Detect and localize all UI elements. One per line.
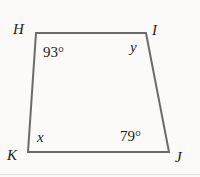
- angle-measure-h: 93°: [43, 45, 64, 60]
- angle-variable-x: x: [37, 130, 44, 145]
- vertex-label-k: K: [7, 148, 17, 163]
- vertex-label-h: H: [13, 22, 24, 37]
- angle-measure-j: 79°: [120, 129, 141, 144]
- angle-variable-y: y: [130, 40, 137, 55]
- vertex-label-i: I: [152, 23, 157, 38]
- quadrilateral-shape: [0, 0, 200, 177]
- geometry-figure: H I J K 93° y 79° x: [0, 0, 200, 177]
- vertex-label-j: J: [175, 150, 182, 165]
- page-rule-divider: [0, 174, 200, 175]
